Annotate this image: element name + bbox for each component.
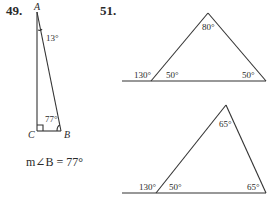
angle-a-label: 13°: [46, 33, 59, 43]
problem-51-number: 51.: [100, 3, 116, 18]
vertex-c-label: C: [28, 129, 35, 140]
side-left: [151, 13, 208, 81]
side-right: [208, 13, 266, 81]
figures-canvas: 49. A C B 13° 77° m∠B = 77° 51. 80° 130°…: [0, 0, 276, 209]
problem-49-number: 49.: [6, 3, 22, 18]
apex-angle-label: 65°: [219, 119, 232, 129]
vertex-a-label: A: [33, 1, 41, 12]
right-angle-marker: [37, 125, 43, 131]
side-left: [156, 105, 226, 193]
base-left-angle-label: 50°: [169, 182, 182, 192]
angle-b-label: 77°: [45, 114, 58, 124]
exterior-angle-label: 130°: [139, 182, 157, 192]
base-left-angle-label: 50°: [166, 70, 179, 80]
exterior-angle-label: 130°: [134, 70, 152, 80]
vertex-b-label: B: [64, 129, 70, 140]
base-right-angle-label: 65°: [247, 182, 260, 192]
answer-text: m∠B = 77°: [26, 155, 83, 169]
base-right-angle-label: 50°: [242, 70, 255, 80]
apex-angle-label: 80°: [202, 22, 215, 32]
triangle-bottom-figure: [122, 105, 266, 193]
side-right: [226, 105, 266, 193]
